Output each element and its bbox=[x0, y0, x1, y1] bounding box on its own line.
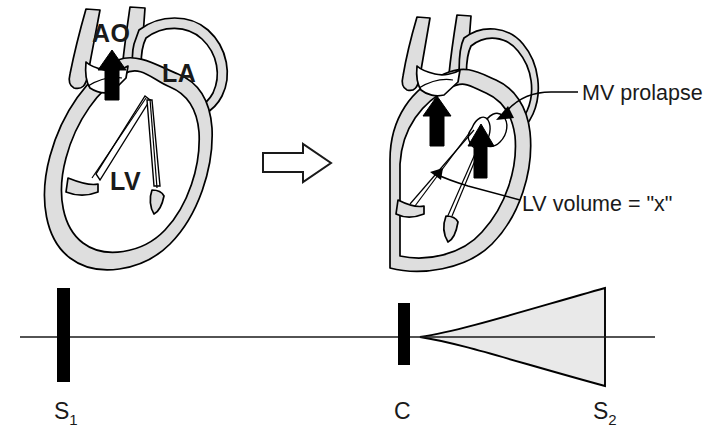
mv-prolapse-label: MV prolapse bbox=[582, 81, 703, 105]
s1-label: S1 bbox=[54, 398, 78, 428]
transition-arrow bbox=[263, 144, 331, 182]
left-atrium-label: LA bbox=[162, 59, 196, 87]
phonocardiogram-trace: S1 C S2 bbox=[20, 288, 655, 428]
figure-canvas: AO LA LV bbox=[0, 0, 717, 433]
c-click-bar bbox=[398, 303, 410, 365]
s2-label: S2 bbox=[593, 398, 617, 428]
aorta-label: AO bbox=[92, 19, 131, 47]
s1-sound-bar bbox=[57, 288, 70, 382]
right-heart-diagram: MV prolapse LV volume = "x" bbox=[390, 15, 703, 271]
c-label: C bbox=[394, 398, 411, 424]
transition-arrow-shape bbox=[263, 144, 331, 182]
lv-volume-label: LV volume = "x" bbox=[522, 192, 673, 216]
left-ventricle-label: LV bbox=[110, 167, 141, 195]
left-heart-diagram: AO LA LV bbox=[44, 7, 227, 270]
mv-prolapse-figure: AO LA LV bbox=[0, 0, 717, 433]
